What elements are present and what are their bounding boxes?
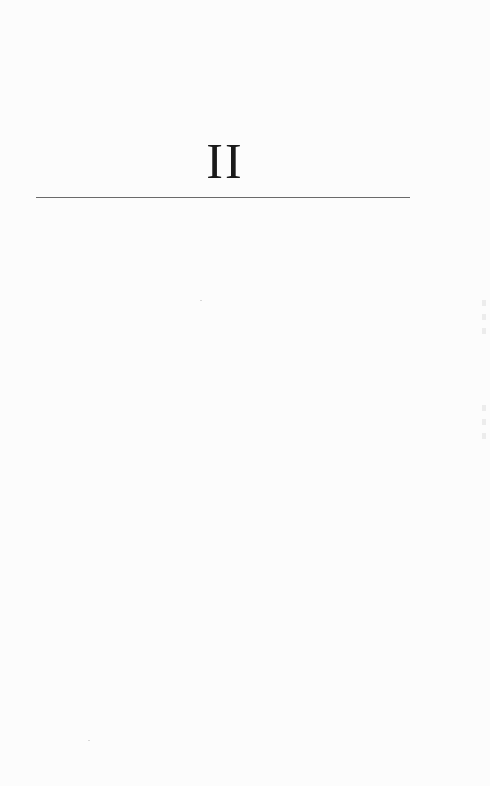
paper-speck [88,740,90,741]
bleed-through-marks-lower [482,405,488,447]
chapter-divider-rule [36,197,410,198]
bleed-through-marks-upper [482,300,488,342]
chapter-number-heading: II [0,136,450,186]
book-page: II [0,0,490,786]
paper-speck [200,300,202,301]
